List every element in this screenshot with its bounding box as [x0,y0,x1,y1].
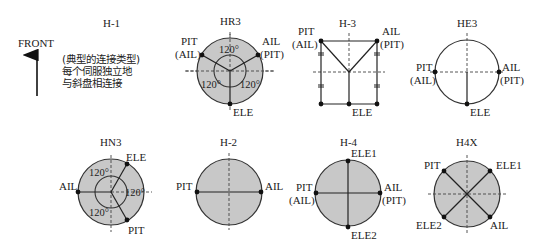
hn3-angle-right: 120° [125,187,145,198]
hr3-angle-left: 120° [201,79,221,90]
hn3-label-pit: PIT [128,224,145,236]
hr3-label-ail-alt: (AIL) [175,48,201,61]
h4-label-pit-alt: (PIT) [382,194,406,207]
h1-description-line-3: 与斜盘相连接 [62,77,140,89]
h3-label-pit-alt: (PIT) [380,38,404,51]
hr3-label-pit: PIT [181,35,198,47]
hn3-label-ele: ELE [126,151,146,163]
hn3-title: HN3 [100,136,122,148]
hr3-label-pit-alt: (PIT) [260,48,284,61]
h4-label-ele2: ELE2 [351,229,377,241]
hr3-label-ele: ELE [233,106,253,118]
h4x-title: H4X [456,136,477,148]
he3-label-ele: ELE [470,106,490,118]
h3-label-ele: ELE [352,106,372,118]
h3-label-ail: AIL [382,25,401,37]
hr3-angle-right: 120° [240,79,260,90]
h1-title: H-1 [103,17,120,29]
hr3-title: HR3 [220,15,241,27]
h4x-label-ail: AIL [490,219,509,231]
hn3-label-ail: AIL [59,180,78,192]
h3-label-pit: PIT [298,25,315,37]
he3-label-ail: AIL [502,61,521,73]
he3-title: HE3 [457,17,478,29]
diagram-h4x: H4X PIT ELE1 ELE2 AIL [416,136,522,235]
he3-label-pit: PIT [416,61,433,73]
h1-description-line-2: 每个伺服独立地 [62,65,140,77]
hn3-angle-top: 120° [89,167,109,178]
front-label: FRONT [18,37,54,49]
front-indicator: FRONT [18,37,54,96]
hr3-label-ail: AIL [262,35,281,47]
h4x-label-pit: PIT [424,159,441,171]
diagram-h2: H-2 PIT AIL [176,136,284,230]
h3-label-ail-alt: (AIL) [292,38,318,51]
diagram-hn3: HN3 120° 120° 120° AIL ELE PIT [59,136,152,236]
hr3-angle-top: 120° [219,44,239,55]
swash-type-diagrams: FRONT H-1 HR3 120° 120° 120° PIT (AIL) A… [0,0,537,252]
h2-label-ail: AIL [265,180,284,192]
h2-label-pit: PIT [176,180,193,192]
diagram-h1: H-1 [103,17,120,29]
diagram-h4: H-4 ELE1 PIT (AIL) AIL (PIT) ELE2 [289,136,406,241]
diagram-h3: H-3 PIT (AIL) AIL (PIT) ELE [292,17,404,118]
h4-label-pit: PIT [296,181,313,193]
h1-description: (典型的连接类型) 每个伺服独立地 与斜盘相连接 [62,53,140,89]
h4x-label-ele1: ELE1 [496,159,522,171]
he3-label-pit-alt: (PIT) [500,74,524,87]
h4x-label-ele2: ELE2 [416,219,442,231]
diagram-he3: HE3 PIT (AIL) AIL (PIT) ELE [410,17,524,118]
h3-title: H-3 [339,17,357,29]
he3-label-ail-alt: (AIL) [410,74,436,87]
diagram-hr3: HR3 120° 120° 120° PIT (AIL) AIL (PIT) E… [175,15,284,118]
h4-label-ail-alt: (AIL) [289,194,315,207]
h4-label-ele1: ELE1 [351,147,377,159]
h4-label-ail: AIL [384,181,403,193]
hn3-angle-bottom: 120° [89,207,109,218]
h2-title: H-2 [220,136,237,148]
h1-description-line-1: (典型的连接类型) [62,53,140,65]
